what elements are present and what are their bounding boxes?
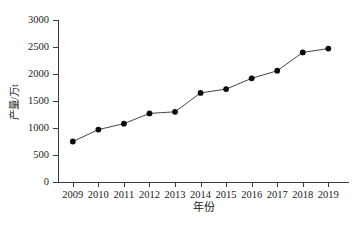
data-point [70, 139, 76, 145]
data-point [325, 46, 331, 52]
data-point [274, 68, 280, 74]
data-series-layer [0, 0, 358, 229]
line-chart: 050010001500200025003000 200920102011201… [0, 0, 358, 229]
data-point [95, 127, 101, 133]
data-point [147, 111, 153, 117]
data-point [121, 121, 127, 127]
data-point [249, 75, 255, 81]
data-point [300, 50, 306, 56]
data-point [172, 109, 178, 115]
data-point [223, 86, 229, 92]
data-point [198, 90, 204, 96]
